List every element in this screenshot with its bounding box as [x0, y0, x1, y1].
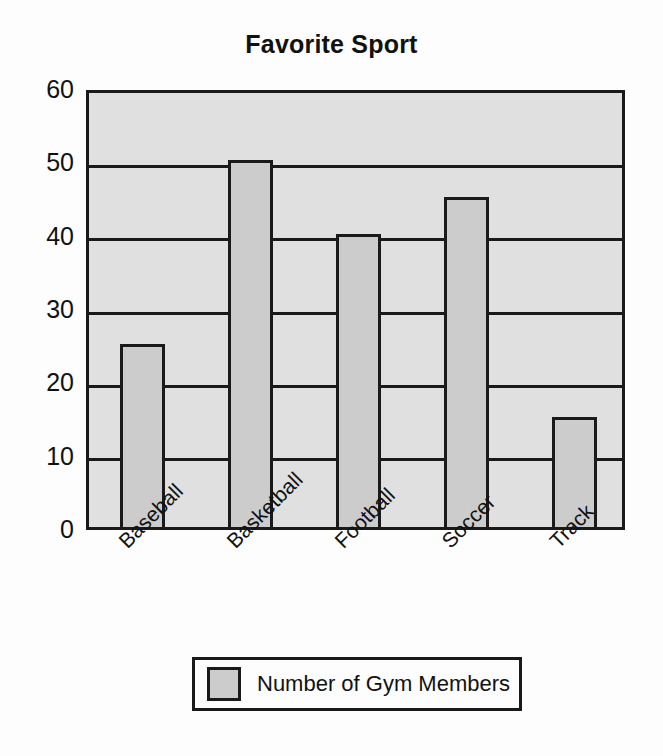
plot-area — [86, 90, 625, 530]
legend-swatch-icon — [207, 667, 241, 701]
y-axis-tick-label: 10 — [4, 444, 74, 469]
y-axis-tick-label: 30 — [4, 297, 74, 322]
x-axis-tick-labels: BaseballBasketballFootballSoccerTrack — [86, 530, 625, 650]
y-axis-tick-label: 50 — [4, 150, 74, 175]
y-axis-tick-label: 0 — [4, 517, 74, 542]
y-axis-tick-labels: 0102030405060 — [0, 90, 74, 530]
plot-inner — [89, 93, 622, 527]
y-axis-tick-label: 20 — [4, 370, 74, 395]
legend: Number of Gym Members — [192, 657, 522, 711]
y-axis-tick-label: 60 — [4, 77, 74, 102]
bar — [444, 197, 489, 527]
legend-label: Number of Gym Members — [257, 671, 510, 697]
y-axis-tick-label: 40 — [4, 224, 74, 249]
bar — [336, 234, 381, 527]
gridline — [89, 165, 622, 168]
bar-chart: Favorite Sport 0102030405060 BaseballBas… — [0, 0, 663, 756]
bar — [228, 160, 273, 527]
chart-title: Favorite Sport — [0, 30, 663, 59]
